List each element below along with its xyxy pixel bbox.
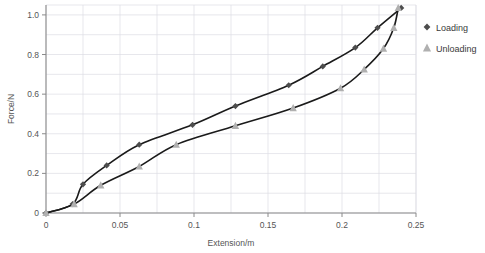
data-point-marker [97, 181, 104, 188]
chart-svg: 00.050.10.150.20.25 00.20.40.60.81.0 Ext… [0, 0, 485, 253]
legend-marker-triangle [423, 44, 431, 52]
y-tick-label: 0.2 [27, 168, 39, 178]
x-tick-label: 0.25 [408, 220, 425, 230]
x-axis-title: Extension/m [208, 238, 255, 248]
y-axis-title: Force/N [6, 94, 16, 124]
x-tick-label: 0.1 [188, 220, 200, 230]
legend-label-unloading: Unloading [436, 44, 477, 54]
data-point-marker [337, 84, 344, 91]
x-tick-label: 0 [44, 220, 49, 230]
data-point-marker [189, 122, 195, 128]
data-point-marker [136, 142, 142, 148]
force-extension-chart: 00.050.10.150.20.25 00.20.40.60.81.0 Ext… [0, 0, 485, 253]
x-axis-ticks [46, 213, 416, 217]
data-point-marker [320, 63, 326, 69]
y-axis-ticks [42, 15, 46, 213]
series-line-unloading [46, 8, 398, 213]
y-tick-label: 0.6 [27, 89, 39, 99]
x-tick-label: 0.2 [336, 220, 348, 230]
data-point-marker [232, 103, 238, 109]
legend-marker-diamond [424, 24, 431, 31]
x-tick-label: 0.05 [112, 220, 129, 230]
x-tick-label: 0.15 [260, 220, 277, 230]
data-point-marker [286, 82, 292, 88]
x-tick-labels: 00.050.10.150.20.25 [44, 220, 425, 230]
series-markers [42, 4, 404, 216]
data-point-marker [136, 162, 143, 169]
data-point-marker [390, 24, 397, 31]
y-tick-labels: 00.20.40.60.81.0 [27, 10, 39, 218]
chart-legend: LoadingUnloading [423, 23, 477, 54]
series-line-loading [46, 8, 401, 213]
y-tick-label: 0.4 [27, 129, 39, 139]
y-tick-label: 1.0 [27, 10, 39, 20]
y-tick-label: 0.8 [27, 50, 39, 60]
grid-lines [46, 5, 416, 213]
series-curves [46, 8, 401, 213]
y-tick-label: 0 [34, 208, 39, 218]
legend-label-loading: Loading [436, 23, 468, 33]
